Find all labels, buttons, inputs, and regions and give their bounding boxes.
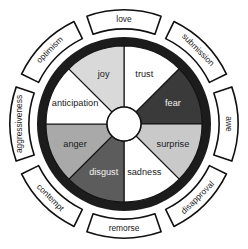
dyad-label-awe: awe — [224, 116, 234, 132]
emotion-label-anticipation: anticipation — [52, 98, 98, 108]
emotion-label-anger: anger — [63, 139, 87, 149]
emotion-label-disgust: disgust — [89, 167, 119, 177]
dyad-label-love: love — [116, 14, 132, 24]
emotion-label-trust: trust — [135, 69, 153, 79]
emotion-label-surprise: surprise — [157, 139, 190, 149]
dyad-label-aggressiveness: aggressiveness — [14, 95, 24, 153]
wheel-canvas: trustfearsurprisesadnessdisgustangeranti… — [0, 0, 248, 249]
emotion-label-fear: fear — [165, 98, 181, 108]
center-hub — [107, 107, 141, 141]
plutchik-wheel-diagram: trustfearsurprisesadnessdisgustangeranti… — [0, 0, 248, 249]
hub-circle — [107, 107, 141, 141]
emotion-label-sadness: sadness — [127, 167, 162, 177]
dyad-label-remorse: remorse — [109, 223, 140, 233]
emotion-label-joy: joy — [97, 69, 110, 79]
